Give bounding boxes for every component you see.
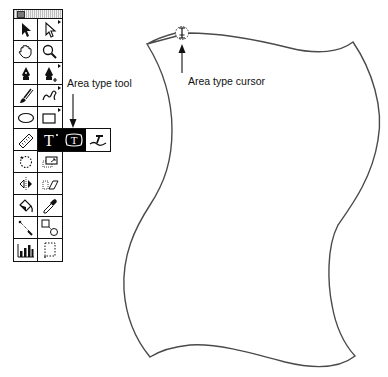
page-icon xyxy=(41,241,59,259)
flyout-type-tool[interactable]: T xyxy=(38,129,62,151)
brush-tool[interactable] xyxy=(14,85,38,107)
flyout-indicator-icon xyxy=(58,108,61,112)
ellipse-icon xyxy=(17,109,35,127)
direct-selection-tool[interactable] xyxy=(38,19,62,41)
selection-tool[interactable] xyxy=(14,19,38,41)
eyedropper-icon xyxy=(41,197,59,215)
shear-icon xyxy=(41,175,59,193)
eyedropper-tool[interactable] xyxy=(38,195,62,217)
squiggle-icon xyxy=(41,87,59,105)
svg-text:T: T xyxy=(44,132,54,149)
flyout-indicator-icon xyxy=(58,86,61,90)
magnifier-icon xyxy=(41,43,59,61)
pen-nib-icon xyxy=(17,65,35,83)
auto-trace-tool[interactable] xyxy=(38,217,62,239)
flyout-indicator-icon xyxy=(58,64,61,68)
reflect-icon xyxy=(17,175,35,193)
hand-tool[interactable] xyxy=(14,41,38,63)
reflect-tool[interactable] xyxy=(14,173,38,195)
tool-callout-arrow-icon xyxy=(70,94,77,128)
rectangle-tool[interactable] xyxy=(38,107,62,129)
auto-trace-icon xyxy=(41,219,59,237)
hand-icon xyxy=(17,43,35,61)
freehand-tool[interactable] xyxy=(38,85,62,107)
path-type-icon xyxy=(88,131,108,149)
area-type-cursor-label: Area type cursor xyxy=(188,75,265,87)
rotate-tool[interactable] xyxy=(14,151,38,173)
measure-tool[interactable] xyxy=(14,129,38,151)
flyout-path-type-tool[interactable] xyxy=(86,129,110,151)
blend-icon xyxy=(17,219,35,237)
ruler-icon xyxy=(17,131,35,149)
scale-tool[interactable] xyxy=(38,151,62,173)
area-type-icon: T xyxy=(64,131,84,149)
rotate-icon xyxy=(17,153,35,171)
hollow-arrow-icon xyxy=(41,21,59,39)
area-type-tool-label: Area type tool xyxy=(67,77,132,89)
graph-tool[interactable] xyxy=(14,239,38,261)
paint-bucket-tool[interactable] xyxy=(14,195,38,217)
area-type-cursor-icon xyxy=(176,27,189,40)
blend-tool[interactable] xyxy=(14,217,38,239)
zoom-tool[interactable] xyxy=(38,41,62,63)
brush-icon xyxy=(17,87,35,105)
add-anchor-tool[interactable] xyxy=(38,63,62,85)
scale-icon xyxy=(41,153,59,171)
toolbox-title-bar[interactable] xyxy=(14,10,62,19)
page-tool[interactable] xyxy=(38,239,62,261)
svg-text:T: T xyxy=(71,134,78,146)
shear-tool[interactable] xyxy=(38,173,62,195)
illustration-stage: Area type tool Area type cursor xyxy=(0,0,388,377)
pen-plus-icon xyxy=(41,65,59,83)
type-icon: T xyxy=(40,131,60,149)
arrow-icon xyxy=(17,21,35,39)
oval-tool[interactable] xyxy=(14,107,38,129)
rectangle-icon xyxy=(41,109,59,127)
close-box-icon[interactable] xyxy=(17,11,25,18)
bar-graph-icon xyxy=(17,241,35,259)
cursor-callout-arrow-icon xyxy=(179,44,186,73)
pen-tool[interactable] xyxy=(14,63,38,85)
flyout-indicator-icon xyxy=(58,20,61,24)
flyout-area-type-tool[interactable]: T xyxy=(62,129,86,151)
type-tool-flyout: T T xyxy=(37,128,111,152)
paint-bucket-icon xyxy=(17,197,35,215)
